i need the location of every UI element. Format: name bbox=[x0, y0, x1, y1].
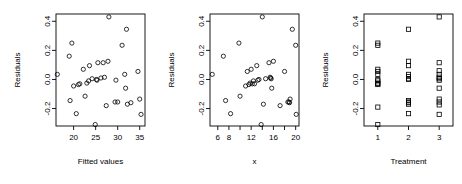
data-point bbox=[70, 41, 74, 45]
x-tick-label: 25 bbox=[91, 133, 100, 142]
data-point bbox=[81, 67, 85, 71]
y-tick-label: -0.2 bbox=[44, 101, 53, 115]
data-point bbox=[261, 102, 265, 106]
data-point bbox=[437, 77, 441, 81]
data-point bbox=[87, 64, 91, 68]
data-points bbox=[55, 15, 143, 127]
x-tick-label: 1 bbox=[376, 133, 381, 142]
y-tick-label: -0.2 bbox=[198, 101, 207, 115]
data-point bbox=[120, 43, 124, 47]
data-point bbox=[255, 64, 259, 68]
data-point bbox=[124, 86, 128, 90]
figure-root: 20253035-0.20.00.20.4Fitted valuesResidu… bbox=[0, 0, 462, 184]
x-axis-title: Fitted values bbox=[78, 157, 123, 166]
data-point bbox=[406, 27, 410, 31]
data-point bbox=[68, 98, 72, 102]
y-tick-label: -0.2 bbox=[352, 101, 361, 115]
data-point bbox=[139, 112, 143, 116]
x-tick-label: 30 bbox=[113, 133, 122, 142]
data-point bbox=[245, 69, 249, 73]
data-point bbox=[437, 61, 441, 65]
data-point bbox=[437, 15, 441, 19]
y-axis-title: Residuals bbox=[167, 52, 176, 87]
data-point bbox=[221, 54, 225, 58]
data-point bbox=[437, 100, 441, 104]
data-point bbox=[437, 75, 441, 79]
data-point bbox=[116, 100, 120, 104]
x-tick-label: 20 bbox=[69, 133, 78, 142]
data-point bbox=[249, 67, 253, 71]
plot-area-1: 68121620-0.20.00.20.4xResiduals bbox=[154, 0, 308, 184]
data-point bbox=[90, 77, 94, 81]
data-point bbox=[376, 72, 380, 76]
data-point bbox=[406, 59, 410, 63]
data-points bbox=[376, 15, 442, 127]
data-point bbox=[376, 105, 380, 109]
data-point bbox=[72, 84, 76, 88]
data-point bbox=[406, 112, 410, 116]
data-point bbox=[290, 27, 294, 31]
scatter-panel-treatment: 123-0.20.00.20.4TreatmentResiduals bbox=[308, 0, 462, 184]
scatter-panel-fitted-values: 20253035-0.20.00.20.4Fitted valuesResidu… bbox=[0, 0, 154, 184]
data-point bbox=[124, 27, 128, 31]
x-axis-title: Treatment bbox=[390, 157, 427, 166]
data-point bbox=[282, 69, 286, 73]
plot-area-2: 123-0.20.00.20.4TreatmentResiduals bbox=[308, 0, 462, 184]
data-point bbox=[123, 72, 127, 76]
data-point bbox=[107, 15, 111, 19]
data-point bbox=[136, 69, 140, 73]
data-point bbox=[96, 61, 100, 65]
data-point bbox=[104, 104, 108, 108]
y-tick-label: 0.2 bbox=[352, 44, 361, 56]
x-tick-label: 2 bbox=[406, 133, 411, 142]
x-tick-label: 8 bbox=[227, 133, 232, 142]
y-tick-label: 0.2 bbox=[44, 44, 53, 56]
data-point bbox=[437, 112, 441, 116]
y-axis-title: Residuals bbox=[13, 52, 22, 87]
y-tick-label: 0.2 bbox=[198, 44, 207, 56]
y-tick-label: 0.4 bbox=[198, 15, 207, 27]
data-points bbox=[210, 15, 298, 127]
x-tick-label: 20 bbox=[291, 133, 300, 142]
x-tick-label: 3 bbox=[437, 133, 442, 142]
data-point bbox=[238, 94, 242, 98]
y-tick-label: 0.0 bbox=[198, 73, 207, 85]
y-tick-label: 0.4 bbox=[352, 15, 361, 27]
data-point bbox=[67, 54, 71, 58]
data-point bbox=[267, 61, 271, 65]
data-point bbox=[260, 15, 264, 19]
data-point bbox=[237, 41, 241, 45]
data-point bbox=[437, 103, 441, 107]
data-point bbox=[106, 59, 110, 63]
data-point bbox=[294, 112, 298, 116]
data-point bbox=[271, 59, 275, 63]
data-point bbox=[114, 78, 118, 82]
x-tick-label: 12 bbox=[247, 133, 256, 142]
data-point bbox=[437, 78, 441, 82]
x-axis-title: x bbox=[253, 157, 257, 166]
x-tick-label: 35 bbox=[135, 133, 144, 142]
data-point bbox=[228, 112, 232, 116]
data-point bbox=[406, 64, 410, 68]
data-point bbox=[83, 94, 87, 98]
data-point bbox=[101, 61, 105, 65]
data-point bbox=[278, 104, 282, 108]
x-tick-label: 16 bbox=[269, 133, 278, 142]
data-point bbox=[129, 101, 133, 105]
plot-area-0: 20253035-0.20.00.20.4Fitted valuesResidu… bbox=[0, 0, 154, 184]
x-tick-label: 6 bbox=[216, 133, 221, 142]
y-tick-label: 0.0 bbox=[352, 73, 361, 85]
y-tick-label: 0.0 bbox=[44, 73, 53, 85]
data-point bbox=[138, 97, 142, 101]
data-point bbox=[437, 86, 441, 90]
y-tick-label: 0.4 bbox=[44, 15, 53, 27]
y-axis-title: Residuals bbox=[321, 52, 330, 87]
scatter-panel-x: 68121620-0.20.00.20.4xResiduals bbox=[154, 0, 308, 184]
data-point bbox=[74, 112, 78, 116]
data-point bbox=[223, 98, 227, 102]
data-point bbox=[210, 72, 214, 76]
data-point bbox=[294, 43, 298, 47]
data-point bbox=[264, 77, 268, 81]
data-point bbox=[78, 82, 82, 86]
data-point bbox=[270, 86, 274, 90]
